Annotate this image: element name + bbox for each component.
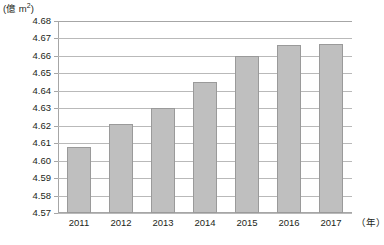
bar-2016 — [277, 45, 301, 213]
x-axis-tick-label: 2017 — [320, 217, 341, 228]
y-axis-tick-mark — [54, 73, 58, 74]
y-axis-unit-text: 億 m — [6, 3, 27, 14]
y-axis-tick-mark — [54, 126, 58, 127]
y-axis-tick-label: 4.62 — [33, 121, 52, 131]
x-axis-tick-label: 2011 — [69, 217, 89, 228]
gridline — [58, 38, 352, 39]
x-axis-unit-label: （年） — [356, 217, 384, 228]
bar-2011 — [67, 147, 91, 213]
bar-2012 — [109, 124, 133, 213]
y-axis-tick-label: 4.60 — [33, 156, 52, 166]
bar-2017 — [319, 44, 343, 213]
x-axis-tick-label: 2015 — [236, 217, 257, 228]
x-axis-tick-label: 2016 — [278, 217, 299, 228]
y-axis-tick-mark — [54, 178, 58, 179]
bar-2014 — [193, 82, 217, 213]
y-axis-tick-label: 4.68 — [33, 16, 52, 26]
x-axis-tick-label: 2014 — [194, 217, 215, 228]
bar-2013 — [151, 108, 175, 213]
y-axis-tick-label: 4.58 — [33, 191, 52, 201]
y-axis-tick-mark — [54, 161, 58, 162]
y-axis-tick-mark — [54, 56, 58, 57]
bar-2015 — [235, 56, 259, 213]
gridline — [58, 213, 352, 214]
gridline — [58, 73, 352, 74]
y-axis-tick-label: 4.57 — [33, 208, 52, 218]
y-axis-tick-mark — [54, 91, 58, 92]
y-axis-tick-label: 4.64 — [33, 86, 52, 96]
y-axis-tick-label: 4.59 — [33, 173, 52, 183]
y-axis-tick-label: 4.65 — [33, 68, 52, 78]
gridline — [58, 56, 352, 57]
y-axis-tick-mark — [54, 108, 58, 109]
gridline — [58, 21, 352, 22]
x-axis-tick-label: 2012 — [110, 217, 131, 228]
y-axis-tick-mark — [54, 196, 58, 197]
y-axis-tick-mark — [54, 38, 58, 39]
y-axis-tick-mark — [54, 21, 58, 22]
y-axis-tick-mark — [54, 213, 58, 214]
y-axis-tick-label: 4.66 — [33, 51, 52, 61]
y-axis-unit-label: (億 m2) — [3, 3, 34, 15]
y-axis-tick-label: 4.63 — [33, 103, 52, 113]
x-axis-tick-label: 2013 — [152, 217, 173, 228]
plot-area: 4.684.674.664.654.644.634.624.614.604.59… — [58, 21, 352, 213]
y-axis-tick-label: 4.67 — [33, 33, 52, 43]
y-axis-tick-mark — [54, 143, 58, 144]
y-axis-tick-label: 4.61 — [33, 138, 52, 148]
y-axis-unit-close: ) — [31, 3, 34, 14]
